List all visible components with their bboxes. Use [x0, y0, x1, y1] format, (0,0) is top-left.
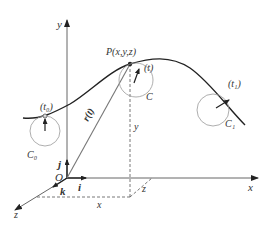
- current-parameter-label: (t): [144, 62, 154, 74]
- y-axis-label: y: [56, 18, 62, 30]
- projection-x-label: x: [96, 199, 102, 210]
- position-vector-label: r(t): [80, 106, 97, 123]
- projection-z-label: z: [141, 183, 146, 194]
- unit-vector-j-label: j: [56, 158, 62, 170]
- x-axis-label: x: [247, 181, 253, 193]
- tangent-arrow-t: [134, 69, 139, 83]
- point-p-label: P(x,y,z): [105, 46, 137, 58]
- circle-c0-label: C₀: [27, 149, 38, 160]
- space-curve-diagram: y x z O j i k y x z r(t) P(x,y,z) (t₀) C…: [0, 0, 268, 226]
- tangent-arrow-t1: [216, 100, 229, 108]
- z-axis-label: z: [13, 209, 18, 220]
- projection-y-label: y: [133, 121, 139, 132]
- unit-vector-k-label: k: [60, 185, 66, 197]
- circle-c-label: C: [146, 91, 153, 102]
- end-parameter-label: (t₁): [228, 78, 242, 90]
- projection-diagonal: [130, 178, 152, 197]
- unit-vector-i-label: i: [78, 181, 82, 193]
- circle-c1-label: C₁: [225, 118, 235, 129]
- start-parameter-label: (t₀): [40, 101, 54, 113]
- space-curve: [23, 59, 245, 125]
